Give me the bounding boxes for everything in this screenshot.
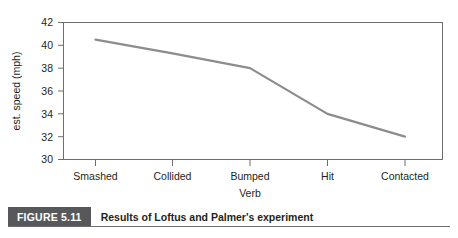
y-axis-ticks <box>58 23 64 160</box>
data-line-est-speed <box>96 40 406 137</box>
y-tick-label-38: 38 <box>41 62 53 74</box>
x-tick-label-bumped: Bumped <box>230 170 269 182</box>
x-axis-title: Verb <box>239 187 261 199</box>
figure-caption-text-wrap: Results of Loftus and Palmer's experimen… <box>91 207 450 226</box>
line-chart: 42 40 38 36 34 32 30 est. speed (mph) Sm… <box>0 0 458 200</box>
y-tick-label-42: 42 <box>41 16 53 28</box>
figure-number-badge: FIGURE 5.11 <box>8 207 91 226</box>
figure-container: 42 40 38 36 34 32 30 est. speed (mph) Sm… <box>0 0 458 238</box>
x-tick-label-contacted: Contacted <box>381 170 429 182</box>
y-tick-label-32: 32 <box>41 131 53 143</box>
y-tick-label-40: 40 <box>41 39 53 51</box>
y-tick-label-34: 34 <box>41 108 53 120</box>
y-tick-label-30: 30 <box>41 153 53 165</box>
figure-caption-text: Results of Loftus and Palmer's experimen… <box>101 211 314 223</box>
figure-caption-bar: FIGURE 5.11 Results of Loftus and Palmer… <box>8 207 450 226</box>
x-axis-ticks <box>96 160 406 167</box>
x-tick-label-collided: Collided <box>154 170 192 182</box>
x-tick-label-smashed: Smashed <box>73 170 118 182</box>
y-axis-title: est. speed (mph) <box>10 52 22 131</box>
chart-area: 42 40 38 36 34 32 30 est. speed (mph) Sm… <box>0 0 458 200</box>
x-tick-label-hit: Hit <box>321 170 334 182</box>
y-tick-label-36: 36 <box>41 85 53 97</box>
caption-bottom-rule <box>8 226 450 227</box>
